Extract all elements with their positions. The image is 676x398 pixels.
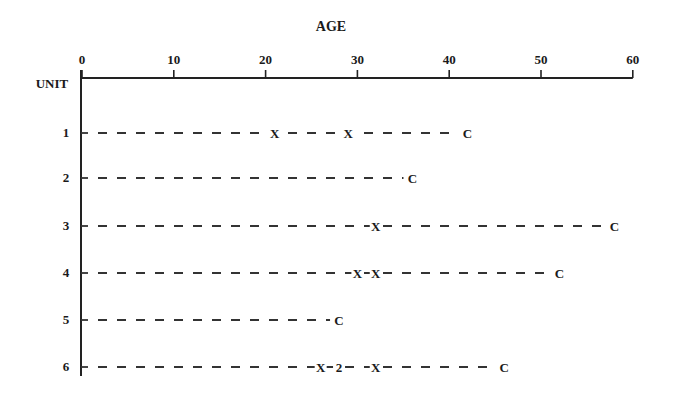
censor-marker: C: [463, 126, 472, 141]
unit-label: 6: [63, 359, 70, 374]
failure-marker: X: [371, 360, 381, 375]
unit-row-5: 5C: [63, 312, 345, 328]
censor-marker: C: [500, 360, 509, 375]
unit-row-2: 2C: [63, 170, 419, 186]
censor-marker: C: [610, 219, 619, 234]
y-axis-title: UNIT: [36, 76, 69, 91]
multiple-failure-marker: 2: [336, 360, 343, 375]
x-axis: 0102030405060: [79, 52, 640, 78]
unit-rows: 1XXC2C3XC4XXC5C6X2XC: [63, 125, 621, 375]
x-tick-label: 60: [626, 52, 639, 67]
x-tick-label: 20: [259, 52, 272, 67]
failure-marker: X: [371, 266, 381, 281]
unit-label: 4: [63, 265, 70, 280]
unit-row-1: 1XXC: [63, 125, 474, 141]
censor-marker: C: [408, 171, 417, 186]
x-tick-label: 0: [79, 52, 86, 67]
unit-label: 3: [63, 218, 70, 233]
failure-marker: X: [344, 126, 354, 141]
x-tick-label: 40: [443, 52, 456, 67]
failure-marker: X: [316, 360, 326, 375]
event-plot-chart: AGE UNIT 0102030405060 1XXC2C3XC4XXC5C6X…: [0, 0, 676, 398]
unit-row-3: 3XC: [63, 218, 621, 234]
x-axis-title: AGE: [316, 19, 346, 34]
failure-marker: X: [270, 126, 280, 141]
unit-label: 2: [63, 170, 70, 185]
unit-row-4: 4XXC: [63, 265, 566, 281]
censor-marker: C: [555, 266, 564, 281]
unit-label: 1: [63, 125, 70, 140]
x-tick-label: 30: [351, 52, 364, 67]
x-tick-label: 10: [167, 52, 180, 67]
failure-marker: X: [371, 219, 381, 234]
censor-marker: C: [334, 313, 343, 328]
failure-marker: X: [353, 266, 363, 281]
unit-label: 5: [63, 312, 70, 327]
unit-row-6: 6X2XC: [63, 359, 511, 375]
x-tick-label: 50: [535, 52, 548, 67]
